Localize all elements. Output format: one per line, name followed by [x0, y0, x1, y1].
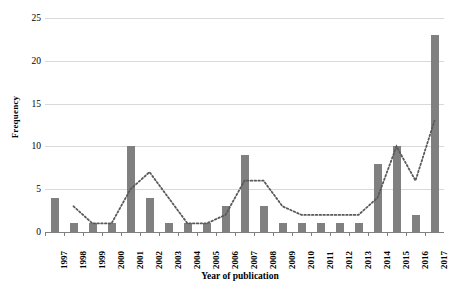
- x-axis-tick-labels: 1997199819992000200120022003200420052006…: [45, 233, 444, 271]
- x-axis-title: Year of publication: [0, 271, 454, 281]
- x-tick-mark-2003: [159, 233, 160, 236]
- x-tick-label-1997: 1997: [59, 251, 69, 269]
- x-tick-label-2001: 2001: [135, 251, 145, 269]
- y-tick-label-5: 5: [36, 184, 41, 194]
- x-tick-label-2005: 2005: [211, 251, 221, 269]
- y-axis-title: Frequency: [10, 72, 20, 162]
- x-tick-label-2002: 2002: [154, 251, 164, 269]
- y-tick-label-20: 20: [32, 56, 42, 66]
- x-tick-label-2007: 2007: [249, 251, 259, 269]
- x-tick-label-2011: 2011: [325, 251, 335, 269]
- x-tick-label-1998: 1998: [78, 251, 88, 269]
- x-tick-mark-2006: [216, 233, 217, 236]
- x-tick-label-2009: 2009: [287, 251, 297, 269]
- x-tick-mark-2014: [368, 233, 369, 236]
- x-tick-label-2015: 2015: [401, 251, 411, 269]
- x-tick-label-1999: 1999: [97, 251, 107, 269]
- x-tick-mark-2001: [121, 233, 122, 236]
- x-tick-mark-2015: [387, 233, 388, 236]
- y-tick-label-0: 0: [36, 227, 41, 237]
- x-tick-label-2006: 2006: [230, 251, 240, 269]
- x-tick-label-2010: 2010: [306, 251, 316, 269]
- x-tick-mark-1998: [64, 233, 65, 236]
- x-tick-mark-2007: [235, 233, 236, 236]
- y-tick-label-10: 10: [32, 141, 42, 151]
- frequency-by-year-bar-chart: Frequency 0510152025 1997199819992000200…: [0, 0, 454, 292]
- x-tick-mark-2002: [140, 233, 141, 236]
- trend-line-series: [45, 18, 444, 232]
- x-tick-mark-2010: [292, 233, 293, 236]
- x-tick-label-2014: 2014: [382, 251, 392, 269]
- x-tick-label-2000: 2000: [116, 251, 126, 269]
- x-tick-label-2003: 2003: [173, 251, 183, 269]
- x-tick-label-2008: 2008: [268, 251, 278, 269]
- trend-polyline: [74, 121, 435, 224]
- x-tick-mark-2008: [254, 233, 255, 236]
- x-tick-mark-1997: [45, 233, 46, 236]
- x-tick-mark-2004: [178, 233, 179, 236]
- x-tick-mark-2016: [406, 233, 407, 236]
- x-tick-label-2017: 2017: [439, 251, 449, 269]
- x-tick-mark-1999: [83, 233, 84, 236]
- x-tick-mark-2000: [102, 233, 103, 236]
- y-tick-label-15: 15: [32, 99, 42, 109]
- x-tick-mark-2017: [425, 233, 426, 236]
- plot-area: 0510152025: [45, 18, 444, 232]
- x-tick-label-2012: 2012: [344, 251, 354, 269]
- x-tick-mark-2005: [197, 233, 198, 236]
- x-tick-mark-2012: [330, 233, 331, 236]
- y-tick-label-25: 25: [32, 13, 42, 23]
- x-tick-label-2016: 2016: [420, 251, 430, 269]
- x-tick-mark-2009: [273, 233, 274, 236]
- x-tick-label-2013: 2013: [363, 251, 373, 269]
- x-tick-mark-2013: [349, 233, 350, 236]
- x-tick-mark-2011: [311, 233, 312, 236]
- x-tick-label-2004: 2004: [192, 251, 202, 269]
